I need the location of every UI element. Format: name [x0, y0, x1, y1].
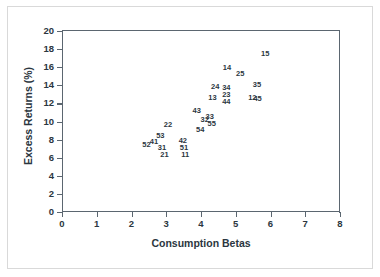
- data-point-label: 53: [156, 132, 164, 140]
- x-tick-mark: [166, 212, 167, 217]
- y-tick-label: 0: [32, 207, 54, 217]
- y-tick-label: 18: [32, 44, 54, 54]
- x-tick-label: 0: [52, 219, 72, 229]
- x-tick-mark: [97, 212, 98, 217]
- plot-area: 5241533121224251114354323355132434234414…: [62, 31, 340, 212]
- y-tick-label: 4: [32, 171, 54, 181]
- x-tick-label: 8: [330, 219, 350, 229]
- data-point-label: 21: [160, 152, 168, 160]
- x-tick-label: 6: [261, 219, 281, 229]
- data-point-label: 22: [164, 121, 172, 129]
- x-tick-label: 3: [156, 219, 176, 229]
- x-tick-label: 2: [122, 219, 142, 229]
- x-tick-label: 1: [87, 219, 107, 229]
- x-tick-label: 5: [226, 219, 246, 229]
- x-tick-mark: [305, 212, 306, 217]
- x-tick-mark: [132, 212, 133, 217]
- data-point-label: 54: [196, 126, 204, 134]
- x-tick-mark: [236, 212, 237, 217]
- y-tick-label: 8: [32, 135, 54, 145]
- data-point-label: 14: [223, 64, 231, 72]
- plot-right-spine: [339, 30, 340, 213]
- data-point-label: 44: [222, 98, 230, 106]
- data-point-label: 43: [193, 107, 201, 115]
- x-tick-mark: [201, 212, 202, 217]
- data-point-label: 11: [181, 152, 189, 160]
- x-tick-label: 7: [295, 219, 315, 229]
- scatter-plot-figure: 02468101214161820 Excess Returns (%) 524…: [0, 0, 380, 277]
- data-point-label: 24: [211, 83, 219, 91]
- data-point-label: 15: [261, 50, 269, 58]
- y-tick-label: 14: [32, 80, 54, 90]
- data-point-label: 45: [253, 95, 261, 103]
- data-point-label: 13: [208, 95, 216, 103]
- x-tick-mark: [62, 212, 63, 217]
- y-tick-label: 20: [32, 26, 54, 36]
- x-axis-title: Consumption Betas: [62, 237, 340, 249]
- y-tick-label: 16: [32, 62, 54, 72]
- data-point-label: 35: [253, 82, 261, 90]
- data-point-label: 25: [236, 70, 244, 78]
- x-tick-label: 4: [191, 219, 211, 229]
- x-tick-mark: [271, 212, 272, 217]
- y-tick-label: 12: [32, 98, 54, 108]
- y-tick-label: 2: [32, 189, 54, 199]
- y-tick-label: 10: [32, 117, 54, 127]
- y-tick-label: 6: [32, 153, 54, 163]
- data-point-label: 55: [208, 120, 216, 128]
- y-axis-title: Excess Returns (%): [22, 31, 34, 201]
